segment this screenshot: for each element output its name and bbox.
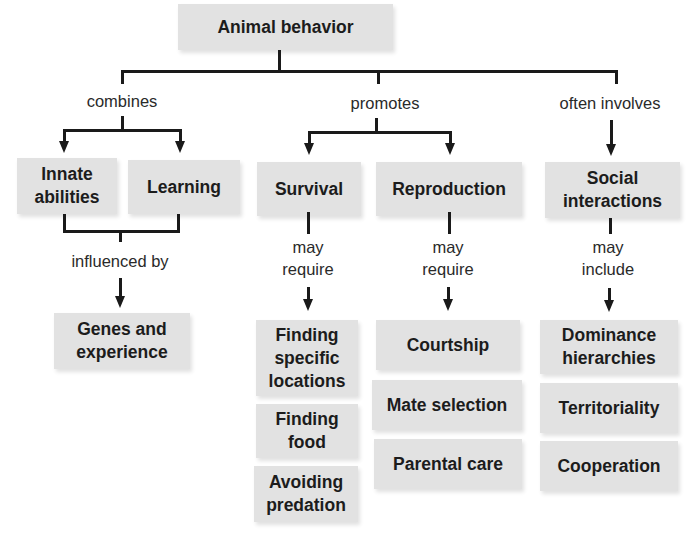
arrow-down-icon <box>443 299 453 311</box>
arrow-down-icon <box>304 143 314 155</box>
node-genes-and-experience: Genes and experience <box>54 313 190 369</box>
connector-influenced-down <box>119 230 122 242</box>
node-animal-behavior: Animal behavior <box>178 4 393 50</box>
arrow-down-icon <box>606 144 616 156</box>
connector-root-down <box>278 50 281 72</box>
connector-social-drop <box>610 120 613 146</box>
arrow-down-icon <box>303 299 313 311</box>
node-dominance-hierarchies: Dominance hierarchies <box>540 320 678 374</box>
link-label-promotes: promotes <box>351 92 420 114</box>
node-survival: Survival <box>257 162 361 216</box>
connector-promotes-down <box>375 118 378 132</box>
node-innate-abilities: Innate abilities <box>17 158 117 214</box>
node-social-interactions: Social interactions <box>545 162 680 218</box>
arrow-down-icon <box>604 300 614 312</box>
connector-often-involves-drop <box>615 70 618 84</box>
connector-promotes-horizontal <box>308 131 451 134</box>
link-label-combines: combines <box>87 90 158 112</box>
connector-genes-drop <box>119 278 122 298</box>
node-finding-food: Finding food <box>256 404 358 458</box>
node-learning: Learning <box>128 160 240 214</box>
connector-promotes-drop <box>377 70 380 84</box>
connector-social-down <box>609 218 612 234</box>
connector-combines-down <box>121 116 124 130</box>
arrow-down-icon <box>59 141 69 153</box>
node-label: Animal behavior <box>217 16 353 39</box>
link-label-often-involves: often involves <box>560 92 661 114</box>
arrow-down-icon <box>445 143 455 155</box>
connector-combines-horizontal <box>63 129 181 132</box>
link-label-influenced-by: influenced by <box>71 250 168 272</box>
node-territoriality: Territoriality <box>540 383 678 433</box>
node-mate-selection: Mate selection <box>372 380 522 430</box>
connector-combines-drop <box>121 70 124 84</box>
node-courtship: Courtship <box>376 320 520 370</box>
connector-reproduction-down <box>448 212 451 234</box>
link-label-may-require: may require <box>282 236 333 280</box>
arrow-down-icon <box>115 296 125 308</box>
node-parental-care: Parental care <box>374 439 522 489</box>
node-avoiding-predation: Avoiding predation <box>254 466 358 522</box>
connector-survival-down <box>307 212 310 234</box>
connector-root-horizontal <box>121 70 618 73</box>
link-label-may-require: may require <box>422 236 473 280</box>
link-label-may-include: may include <box>582 236 634 280</box>
connector-influenced-horizontal <box>63 230 180 233</box>
node-cooperation: Cooperation <box>540 441 678 491</box>
arrow-down-icon <box>175 141 185 153</box>
node-finding-specific-locations: Finding specific locations <box>256 320 358 396</box>
node-reproduction: Reproduction <box>376 162 522 216</box>
